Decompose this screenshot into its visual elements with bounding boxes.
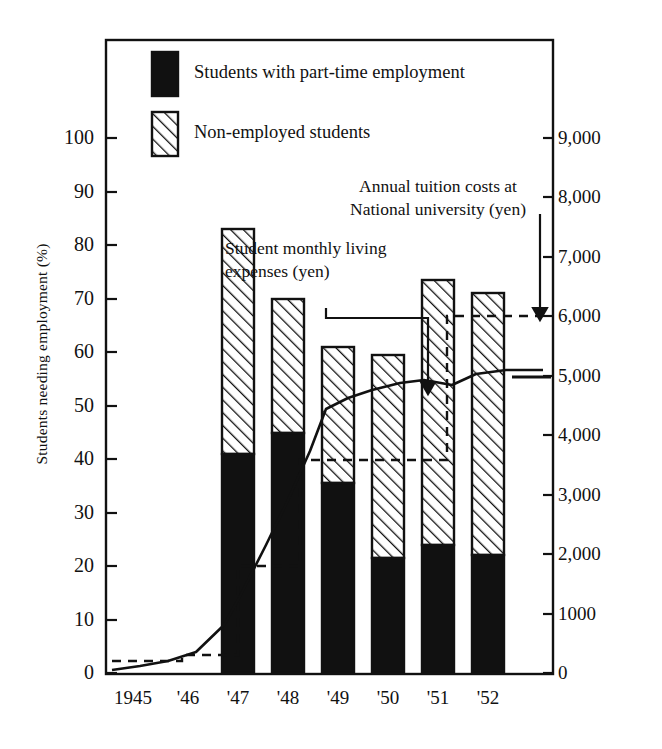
annotation-living-line1: Student monthly living xyxy=(225,238,386,260)
y-tick-10: 10 xyxy=(40,608,94,631)
bar-1949 xyxy=(322,347,354,673)
y-tick-20: 20 xyxy=(40,554,94,577)
y2-tick-3000: 3,000 xyxy=(558,484,638,506)
y2-tick-1000: 1000 xyxy=(558,603,638,625)
y-tick-100: 100 xyxy=(40,126,94,149)
y-tick-90: 90 xyxy=(40,180,94,203)
y2-tick-9000: 9,000 xyxy=(558,127,638,149)
y2-tick-4000: 4,000 xyxy=(558,424,638,446)
legend-label-non-employed: Non-employed students xyxy=(194,122,370,143)
annotation-living-line2: expenses (yen) xyxy=(225,261,329,283)
x-tick-52: '52 xyxy=(453,687,523,709)
y2-tick-6000: 6,000 xyxy=(558,305,638,327)
y-tick-30: 30 xyxy=(40,501,94,524)
chart-figure: Students needing employment (%) 0 10 20 … xyxy=(0,0,662,749)
bar-1951 xyxy=(422,280,454,673)
y-tick-40: 40 xyxy=(40,447,94,470)
y2-tick-7000: 7,000 xyxy=(558,246,638,268)
legend-swatch-non-employed xyxy=(152,112,178,156)
y-tick-80: 80 xyxy=(40,233,94,256)
bar-group xyxy=(222,229,504,673)
y-tick-70: 70 xyxy=(40,287,94,310)
y2-tick-5000: 5,000 xyxy=(558,365,638,387)
y2-tick-0: 0 xyxy=(558,662,638,684)
y-tick-0: 0 xyxy=(40,661,94,684)
y2-tick-2000: 2,000 xyxy=(558,543,638,565)
bar-1950 xyxy=(372,355,404,673)
y2-tick-8000: 8,000 xyxy=(558,186,638,208)
annotation-tuition-line2: National university (yen) xyxy=(328,199,548,221)
y-tick-60: 60 xyxy=(40,340,94,363)
legend-swatch-part-time xyxy=(152,52,178,96)
y-tick-50: 50 xyxy=(40,394,94,417)
bar-1948 xyxy=(272,299,304,673)
legend-label-part-time: Students with part-time employment xyxy=(194,62,465,83)
left-axis-ticks xyxy=(106,138,117,673)
annotation-tuition-line1: Annual tuition costs at xyxy=(328,176,548,198)
bar-1952 xyxy=(472,293,504,673)
